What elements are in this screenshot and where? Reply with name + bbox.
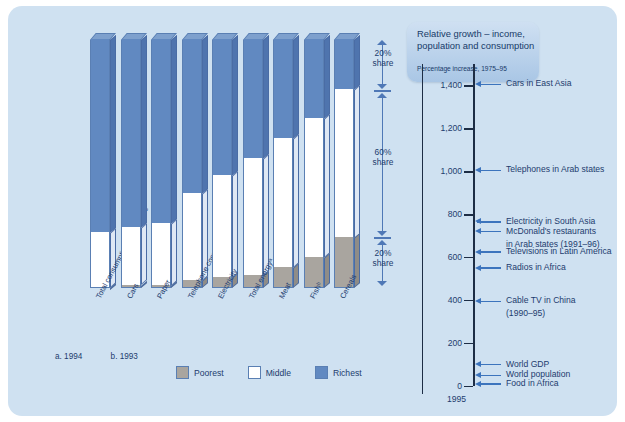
bar-face [304,40,324,288]
annotation-arrowhead-icon [475,381,481,387]
legend-label: Poorest [194,368,224,378]
bar-segment-richest [152,39,170,223]
bar-face [90,40,110,288]
bar-face [334,40,354,288]
footnote-a: a. 1994 [55,352,82,361]
legend-swatch [315,366,328,379]
growth-axis-panel: Relative growth – income, population and… [400,18,616,408]
bar-segment-middle [274,138,292,267]
axis-tick [464,128,473,129]
bar-face [212,40,232,288]
bar-side-richest [324,35,330,119]
bar-segment-richest [305,39,323,118]
chart-title: Relative growth – income, population and… [417,28,535,51]
share-arrow-down-bot [377,281,387,286]
bar-segment-middle [122,228,140,285]
infographic-root: Total consumption expenditureCarsPaperTe… [0,0,625,422]
share-annotations: 20% share 60% share 20% share [366,40,400,288]
axis-tick-label: 800 [418,209,462,219]
bar-column [151,40,171,288]
bar-column [182,40,202,288]
bar-side-middle [354,85,360,239]
bar-segment-richest [274,39,292,138]
bar-segment-middle [244,158,262,275]
annotation-arrowhead-icon [475,265,481,271]
axis-tick [464,343,473,344]
annotation-label: Telephones in Arab states [506,164,604,174]
bar-segment-richest [335,39,353,89]
chart-legend: PoorestMiddleRichest [176,366,379,379]
share-arrow-down-mid [377,231,387,236]
bar-side-richest [354,35,360,90]
bar-face [121,40,141,288]
bar-side-poorest [293,263,299,288]
legend-swatch [176,366,189,379]
axis-tick [464,171,473,172]
annotation-label: Electricity in South Asia [506,216,595,226]
bar-segment-richest [183,39,201,193]
bar-segment-richest [244,39,262,158]
footnote-b: b. 1993 [111,352,138,361]
axis-tick-label: 1,000 [418,166,462,176]
legend-label: Middle [266,368,291,378]
bar-side-middle [232,171,238,278]
bar-segment-richest [91,39,109,232]
bar-face [243,40,263,288]
annotation-label: Cable TV in China [506,295,576,305]
bar-segment-middle [305,118,323,257]
share-divider-top [374,90,391,92]
bar-column [90,40,110,288]
annotation-arrowhead-icon [475,249,481,255]
share-divider-mid [374,237,391,239]
bar-side-richest [171,35,177,224]
bar-segment-middle [335,89,353,238]
legend-label: Richest [333,368,362,378]
bar-face [182,40,202,288]
stacked-bar-chart: Total consumption expenditureCarsPaperTe… [90,40,362,288]
annotation-label: Food in Africa [506,378,559,388]
annotation-arrowhead-icon [475,218,481,224]
bar-column [212,40,232,288]
bar-side-richest [293,35,299,139]
annotation-label: World GDP [506,359,549,369]
annotation-label: Radios in Africa [506,262,566,272]
share-arrow-down-top [377,84,387,89]
annotation-label: Televisions in Latin America [506,246,612,256]
bar-side-richest [232,35,238,176]
axis-tick [464,85,473,86]
annotation-arrowhead-icon [475,372,481,378]
bar-side-richest [263,35,269,159]
bar-column [334,40,354,288]
axis-tick-label: 1,400 [418,80,462,90]
annotation-arrowhead-icon [475,81,481,87]
bar-column [273,40,293,288]
axis-tick [464,300,473,301]
axis-tick-label: 600 [418,252,462,262]
chart-subtitle: Percentage increase, 1975–95 [417,65,537,72]
bar-column [121,40,141,288]
bar-side-middle [293,134,299,268]
bar-column [243,40,263,288]
bar-side-richest [202,35,208,194]
bar-side-richest [141,35,147,229]
bar-segment-middle [183,193,201,280]
axis-tick-label: 400 [418,295,462,305]
bar-column [304,40,324,288]
axis-tick [464,214,473,215]
annotation-label: Cars in East Asia [506,78,571,88]
annotation-label: McDonald's restaurants [506,226,596,236]
legend-item: Richest [315,366,362,379]
annotation-arrowhead-icon [475,298,481,304]
legend-swatch [248,366,261,379]
bar-side-middle [141,223,147,285]
axis-baseline-year: 1995 [418,394,466,404]
bar-side-poorest [324,253,330,288]
bar-side-richest [110,35,116,233]
share-label-bot: 20% share [366,249,400,268]
axis-line [473,64,475,386]
bar-side-middle [324,114,330,258]
share-label-top: 20% share [366,49,400,68]
bar-face [273,40,293,288]
footnotes: a. 1994 b. 1993 [55,352,164,361]
legend-item: Poorest [176,366,224,379]
